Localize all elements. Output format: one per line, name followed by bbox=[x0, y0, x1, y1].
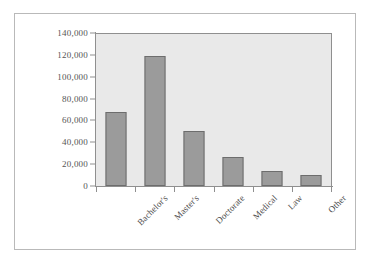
x-axis-category-label: Medical bbox=[251, 193, 279, 221]
x-axis-category-label: Doctorate bbox=[213, 193, 246, 226]
x-axis-category-label: Master's bbox=[172, 193, 201, 222]
x-axis-category-label: Bachelor's bbox=[135, 193, 169, 227]
x-axis-category-label: Law bbox=[286, 193, 305, 212]
chart-figure: 020,00040,00060,00080,000100,000120,0001… bbox=[0, 0, 376, 264]
x-axis-category-label: Other bbox=[326, 193, 348, 215]
x-axis-category-labels: Bachelor'sMaster'sDoctorateMedicalLawOth… bbox=[0, 0, 376, 264]
